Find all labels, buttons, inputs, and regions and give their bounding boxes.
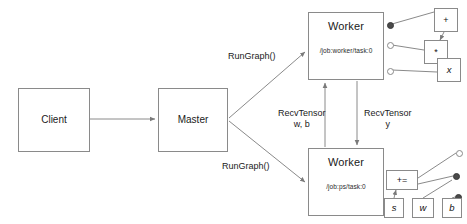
label-rungraph-top: RunGraph() [228, 51, 276, 62]
edge-w-port [423, 180, 452, 198]
var-s-label: s [392, 203, 397, 213]
label-rungraph-bottom: RunGraph() [222, 161, 270, 172]
node-client[interactable]: Client [18, 88, 90, 152]
op-input-x-label: x [447, 65, 452, 75]
edge-port2-x [392, 70, 437, 72]
op-add-label: + [443, 15, 448, 25]
op-add-assign[interactable]: += [386, 170, 418, 190]
node-client-label: Client [41, 114, 67, 126]
edge-port1-mul [392, 45, 424, 50]
node-worker-top-label: Worker [328, 20, 364, 33]
port-output-1 [387, 42, 394, 49]
edge-master-worker-bottom [229, 121, 305, 182]
op-multiply-label: * [434, 47, 438, 57]
architecture-diagram: Client Master Worker /job:worker/task:0 … [0, 0, 467, 224]
edge-s-plusassign [394, 190, 396, 198]
node-master-label: Master [178, 114, 209, 126]
op-add-assign-label: += [397, 175, 408, 185]
node-worker-bottom[interactable]: Worker /job:ps/task:0 [308, 148, 384, 216]
node-worker-bottom-device: /job:ps/task:0 [326, 182, 366, 191]
node-worker-bottom-label: Worker [328, 156, 364, 169]
port-output-2 [387, 68, 394, 75]
node-worker-top-device: /job:worker/task:0 [320, 46, 373, 55]
op-input-x[interactable]: x [437, 58, 461, 82]
edge-plus-mul [440, 32, 444, 40]
var-b-label: b [449, 203, 454, 213]
edge-port0-plus [392, 12, 434, 24]
port-input-1 [453, 173, 460, 180]
port-input-0 [456, 150, 463, 157]
node-worker-top[interactable]: Worker /job:worker/task:0 [308, 12, 384, 80]
label-recvtensor-wb: RecvTensor w, b [278, 108, 326, 130]
node-master[interactable]: Master [158, 88, 228, 152]
port-output-0 [387, 22, 394, 29]
var-w-label: w [420, 203, 427, 213]
op-add[interactable]: + [434, 8, 458, 32]
edge-plusassign-port0 [418, 153, 456, 178]
var-b[interactable]: b [442, 198, 462, 218]
label-recvtensor-y: RecvTensor y [364, 108, 412, 130]
var-w[interactable]: w [412, 198, 434, 218]
var-s[interactable]: s [384, 198, 404, 218]
